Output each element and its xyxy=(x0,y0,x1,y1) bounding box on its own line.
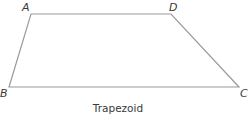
vertex-label-d: D xyxy=(169,1,177,14)
vertex-label-b: B xyxy=(0,87,8,100)
trapezoid-shape xyxy=(9,14,239,87)
figure-caption: Trapezoid xyxy=(92,102,143,114)
vertex-label-a: A xyxy=(21,1,30,14)
trapezoid-diagram: A D C B Trapezoid xyxy=(0,0,248,115)
vertex-label-c: C xyxy=(240,87,248,100)
